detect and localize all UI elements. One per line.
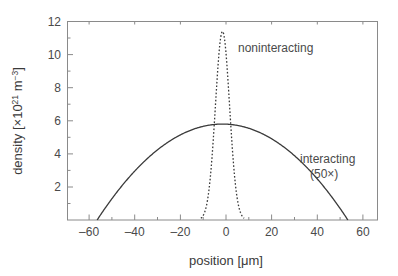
y-tick-label: 2 [54,180,61,194]
chart-background [0,0,398,276]
y-tick-label: 10 [48,48,62,62]
y-axis-title-exp1: 21 [10,95,20,105]
density-profile-chart: 12 10 8 6 4 2 [0,0,398,276]
annotation-interacting-scale: (50×) [310,167,338,181]
y-tick-label: 4 [54,147,61,161]
x-tick-label: –40 [125,225,145,239]
x-tick-label: 60 [356,225,370,239]
chart-svg: 12 10 8 6 4 2 [0,0,398,276]
y-axis-title: density [×1021 m−3] [10,67,25,175]
annotation-noninteracting: noninteracting [238,41,313,55]
y-tick-label: 12 [48,15,62,29]
svg-text:density [×1021 m−3]: density [×1021 m−3] [10,67,25,175]
y-axis-title-close: ] [10,67,25,71]
x-tick-label: 0 [223,225,230,239]
x-axis-title: position [μm] [189,253,263,268]
y-tick-label: 8 [54,81,61,95]
x-tick-label: 20 [265,225,279,239]
y-tick-label: 6 [54,114,61,128]
x-tick-label: –60 [79,225,99,239]
y-axis-title-mid: m [10,80,25,94]
x-tick-label: 40 [311,225,325,239]
x-tick-label: –20 [170,225,190,239]
y-axis-title-base: density [×10 [10,104,25,174]
annotation-interacting: interacting [300,152,355,166]
y-axis-title-exp2: −3 [10,71,20,81]
